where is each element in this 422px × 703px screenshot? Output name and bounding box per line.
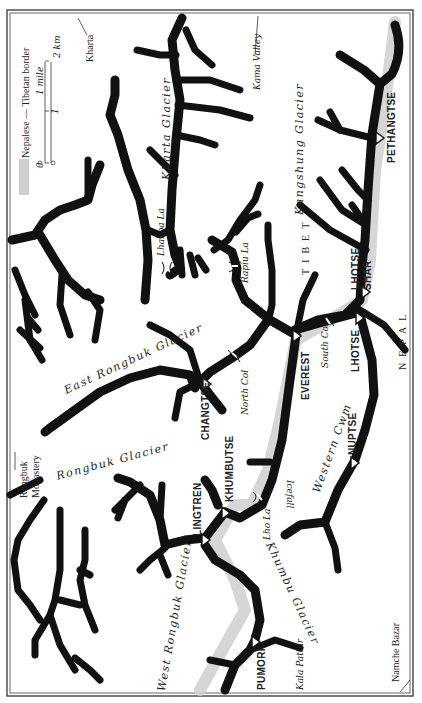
peak-label-pumori: PUMORI (256, 648, 267, 690)
glacier-kharta: Kharta Glacier (160, 77, 173, 180)
scale-mile-label: 1 mile (35, 67, 45, 95)
pass-south-col: South Col (320, 323, 330, 368)
place-rongbuk-monastery: Rongbuk (18, 461, 29, 498)
peak-label-everest: EVEREST (300, 351, 311, 400)
place-kala-pattar: Kala Pattar (295, 639, 305, 690)
pass-north-col: North Col (240, 370, 250, 415)
place-kama-valley: Kama Valley (252, 34, 262, 90)
place-rongbuk-monastery-2: Monastery (30, 455, 41, 498)
peak-label-pethangtse: PETHANGTSE (386, 92, 397, 163)
scale-zero-label: 0 (35, 162, 45, 168)
peak-label-changtse: CHANGTSE (200, 381, 211, 440)
peak-label-khumbutse: KHUMBUTSE (224, 435, 235, 502)
glacier-icefall: Icefall (285, 480, 295, 508)
glacier-kangshung: Kangshung Glacier (293, 83, 306, 215)
peak-label-lhotse: LHOTSE (350, 330, 361, 372)
ridge-west-rongbuk (10, 480, 100, 680)
namche-arrow (400, 680, 410, 692)
pass-lho-la: Lho La (262, 509, 272, 540)
peak-label-lhotse-shar: LHOTSE (350, 248, 361, 290)
scale-km-mid-label: 1 (50, 108, 60, 114)
peak-label-lhotse-shar-2: SHAR (362, 260, 373, 290)
region-nepal: NEPAL (397, 309, 408, 370)
peak-label-lingtren: LINGTREN (192, 482, 203, 536)
place-namche-bazar: Namche Bazar (390, 623, 401, 682)
ridge-lingtren (115, 478, 225, 575)
pass-lhakpa-la: Lhakpa La (156, 208, 166, 256)
pass-rapiu-la: Rapiu La (240, 242, 250, 283)
region-tibet: TIBET (300, 217, 311, 275)
kharta-arrow (78, 18, 87, 35)
legend-border-swatch (19, 159, 29, 195)
legend-border-label: Nepalese — Tibetan border (20, 48, 31, 158)
scale-km-label: 2 km (52, 35, 62, 58)
ridge-rongbuk-north (45, 370, 195, 432)
place-kharta: Kharta (84, 35, 95, 62)
ridge-northwest (12, 80, 148, 360)
